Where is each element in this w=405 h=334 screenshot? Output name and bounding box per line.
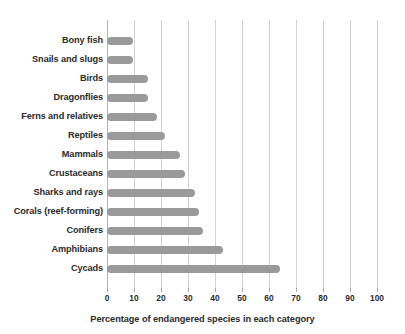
x-tick-mark-40	[215, 288, 216, 292]
bar	[107, 227, 203, 235]
category-label: Crustaceans	[49, 164, 103, 183]
category-label: Birds	[80, 69, 103, 88]
bar-row	[107, 69, 377, 88]
bar-row	[107, 240, 377, 259]
x-tick-label-70: 70	[291, 293, 300, 303]
x-tick-label-40: 40	[210, 293, 219, 303]
category-label: Dragonflies	[54, 88, 103, 107]
bar-row	[107, 183, 377, 202]
plot-area	[107, 20, 377, 292]
bar-row	[107, 202, 377, 221]
x-tick-label-30: 30	[183, 293, 192, 303]
bar-row	[107, 31, 377, 50]
bar	[107, 56, 133, 64]
bar-row	[107, 259, 377, 278]
category-label: Ferns and relatives	[21, 107, 103, 126]
bar-row	[107, 126, 377, 145]
bar	[107, 189, 195, 197]
bar-row	[107, 50, 377, 69]
gridline-100	[377, 20, 378, 292]
bar-row	[107, 164, 377, 183]
value-axis-tick-labels: 0102030405060708090100	[107, 293, 377, 307]
endangered-species-bar-chart: Bony fishSnails and slugsBirdsDragonflie…	[0, 0, 405, 334]
bar-row	[107, 107, 377, 126]
bar	[107, 151, 180, 159]
x-tick-label-90: 90	[345, 293, 354, 303]
category-label: Amphibians	[51, 240, 103, 259]
x-tick-label-80: 80	[318, 293, 327, 303]
x-tick-label-60: 60	[264, 293, 273, 303]
x-tick-mark-80	[323, 288, 324, 292]
x-tick-label-100: 100	[370, 293, 384, 303]
bar	[107, 75, 148, 83]
x-tick-mark-10	[134, 288, 135, 292]
x-tick-label-20: 20	[156, 293, 165, 303]
bar-row	[107, 88, 377, 107]
category-label: Reptiles	[68, 126, 103, 145]
bar	[107, 37, 133, 45]
bar	[107, 94, 148, 102]
x-tick-mark-30	[188, 288, 189, 292]
x-tick-label-10: 10	[129, 293, 138, 303]
category-label: Sharks and rays	[34, 183, 104, 202]
bar	[107, 246, 223, 254]
bar-row	[107, 145, 377, 164]
bar-row	[107, 221, 377, 240]
bar	[107, 170, 185, 178]
x-tick-label-0: 0	[105, 293, 110, 303]
x-tick-mark-20	[161, 288, 162, 292]
bar	[107, 265, 280, 273]
category-axis-labels: Bony fishSnails and slugsBirdsDragonflie…	[0, 20, 103, 292]
x-tick-mark-70	[296, 288, 297, 292]
x-tick-mark-60	[269, 288, 270, 292]
category-label: Conifers	[67, 221, 103, 240]
x-tick-mark-50	[242, 288, 243, 292]
x-tick-mark-90	[350, 288, 351, 292]
category-label: Snails and slugs	[32, 50, 103, 69]
bar	[107, 132, 165, 140]
category-label: Corals (reef-forming)	[14, 202, 103, 221]
category-label: Cycads	[71, 259, 103, 278]
x-tick-mark-0	[107, 288, 108, 292]
bar	[107, 113, 157, 121]
x-axis-title: Percentage of endangered species in each…	[0, 314, 405, 324]
bar	[107, 208, 199, 216]
x-tick-mark-100	[377, 288, 378, 292]
bar-series	[107, 20, 377, 292]
category-label: Bony fish	[62, 31, 103, 50]
category-label: Mammals	[62, 145, 103, 164]
x-tick-label-50: 50	[237, 293, 246, 303]
